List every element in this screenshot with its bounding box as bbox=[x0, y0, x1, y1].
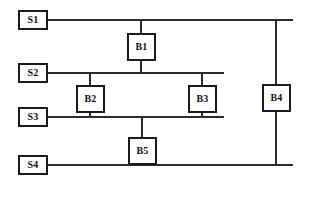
single-line-diagram: S1 S2 S3 S4 B1 B2 B3 B4 B5 bbox=[0, 0, 311, 197]
source-node-s4-label: S4 bbox=[28, 160, 39, 170]
source-node-s1-label: S1 bbox=[28, 15, 39, 25]
source-node-s1[interactable]: S1 bbox=[18, 10, 48, 30]
breaker-node-b4-label: B4 bbox=[270, 93, 282, 103]
bus-line-s1 bbox=[48, 19, 293, 21]
breaker-node-b2[interactable]: B2 bbox=[76, 85, 105, 113]
bus-line-s3 bbox=[48, 116, 224, 118]
breaker-node-b5[interactable]: B5 bbox=[128, 137, 157, 165]
source-node-s2-label: S2 bbox=[28, 68, 39, 78]
breaker-node-b3-label: B3 bbox=[196, 94, 208, 104]
breaker-node-b1[interactable]: B1 bbox=[127, 33, 156, 61]
breaker-node-b4[interactable]: B4 bbox=[262, 84, 291, 112]
breaker-node-b3[interactable]: B3 bbox=[188, 85, 217, 113]
breaker-node-b2-label: B2 bbox=[84, 94, 96, 104]
source-node-s3[interactable]: S3 bbox=[18, 107, 48, 127]
source-node-s2[interactable]: S2 bbox=[18, 63, 48, 83]
source-node-s3-label: S3 bbox=[28, 112, 39, 122]
bus-line-s4 bbox=[48, 164, 293, 166]
source-node-s4[interactable]: S4 bbox=[18, 155, 48, 175]
breaker-node-b5-label: B5 bbox=[136, 146, 148, 156]
bus-line-s2 bbox=[48, 72, 224, 74]
breaker-node-b1-label: B1 bbox=[135, 42, 147, 52]
